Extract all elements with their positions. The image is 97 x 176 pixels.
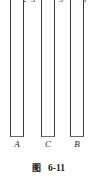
column-label-c: C: [42, 140, 54, 149]
caption-number: 6-11: [48, 163, 65, 173]
caption-label: 图: [32, 163, 41, 173]
column-a: [10, 0, 24, 137]
column-b: [70, 0, 84, 137]
column-c: [41, 0, 55, 137]
column-label-a: A: [11, 140, 23, 149]
figure-caption: 图6-11: [0, 157, 97, 175]
column-label-b: B: [71, 140, 83, 149]
top-number: 5: [57, 0, 65, 4]
top-number: 3: [29, 0, 37, 4]
figure-container: 1 2 3 4 5 6 A C B 图6-11: [0, 0, 97, 176]
